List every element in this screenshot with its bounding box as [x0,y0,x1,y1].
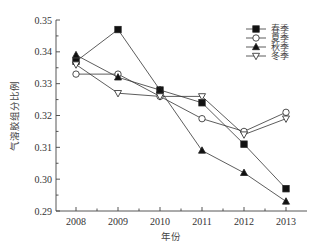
y-tick-label: 0.32 [35,110,53,121]
y-tick-label: 0.31 [35,142,53,153]
x-axis-title: 年份 [161,231,181,242]
data-point-marker-icon [73,71,79,77]
y-axis-title: 气溶胶组分比例 [9,81,20,151]
legend-marker-icon [253,35,259,41]
legend: 春季夏季秋季冬季 [246,23,289,61]
data-point-marker-icon [241,169,248,175]
data-point-marker-icon [283,116,290,122]
data-point-marker-icon [241,132,248,138]
data-point-marker-icon [283,186,289,192]
series-line-4 [76,65,286,135]
y-tick-label: 0.35 [35,15,53,26]
line-chart: 0.290.300.310.320.330.340.35200820092010… [0,0,325,252]
data-point-marker-icon [73,51,80,57]
data-point-marker-icon [115,26,121,32]
legend-marker-icon [253,26,259,32]
data-point-marker-icon [241,141,247,147]
x-tick-label: 2009 [108,216,128,227]
x-tick-label: 2012 [234,216,254,227]
y-tick-label: 0.30 [35,174,53,185]
legend-marker-icon [253,43,260,49]
series-line-3 [76,55,286,201]
series-line-2 [76,74,286,131]
y-tick-label: 0.29 [35,206,53,217]
data-point-marker-icon [283,109,289,115]
axes: 0.290.300.310.320.330.340.35200820092010… [35,15,308,228]
data-point-marker-icon [73,62,80,68]
x-tick-label: 2008 [66,216,86,227]
x-tick-label: 2011 [192,216,212,227]
y-tick-label: 0.33 [35,78,53,89]
x-tick-label: 2013 [276,216,296,227]
y-tick-label: 0.34 [35,46,53,57]
legend-label: 冬季 [271,50,289,61]
data-point-marker-icon [283,198,290,204]
legend-item: 冬季 [246,50,289,61]
data-point-marker-icon [199,115,205,121]
data-point-marker-icon [199,147,206,153]
x-tick-label: 2010 [150,216,170,227]
legend-marker-icon [253,53,260,59]
